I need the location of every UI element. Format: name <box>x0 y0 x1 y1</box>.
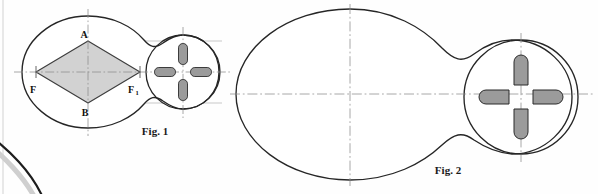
fig1-caption: Fig. 1 <box>142 125 168 137</box>
figure-1: A B F F 1 Fig. 1 <box>14 9 232 137</box>
fig1-slot-bottom <box>179 80 188 101</box>
fig2-caption: Fig. 2 <box>435 164 462 176</box>
fig2-slot-top <box>514 55 528 85</box>
fig1-label-f1-subscript: 1 <box>135 89 138 96</box>
fig1-slot-right <box>191 68 212 77</box>
fig2-slot-left <box>479 90 509 104</box>
fig1-slot-left <box>155 68 176 77</box>
drawing-sheet: A B F F 1 Fig. 1 <box>0 0 598 194</box>
fig1-label-a: A <box>80 29 88 40</box>
fig2-slot-bottom <box>514 109 528 139</box>
technical-drawing-canvas: A B F F 1 Fig. 1 <box>0 0 598 194</box>
figure-2: Fig. 2 <box>230 4 594 186</box>
fig1-label-f: F <box>30 84 36 95</box>
fig1-label-f1: F <box>128 84 134 95</box>
fig2-slot-right <box>533 90 563 104</box>
fig1-label-b: B <box>82 107 89 118</box>
fig1-slot-top <box>179 44 188 65</box>
